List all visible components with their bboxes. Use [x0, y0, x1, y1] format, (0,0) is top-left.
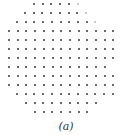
lattice-dot [86, 84, 88, 86]
lattice-dot [86, 39, 88, 41]
lattice-dot [25, 84, 27, 86]
lattice-dot [104, 30, 106, 32]
lattice-dot [25, 30, 27, 32]
lattice-dot [34, 30, 36, 32]
lattice-dot [68, 93, 70, 95]
lattice-dot [77, 3, 79, 5]
lattice-dot [69, 39, 71, 41]
lattice-dot [68, 21, 70, 23]
lattice-dot [95, 57, 97, 59]
lattice-dot [42, 102, 44, 104]
lattice-dot [51, 102, 53, 104]
lattice-dot [78, 111, 80, 113]
lattice-dot [78, 48, 80, 50]
lattice-dot [42, 3, 44, 5]
lattice-dot [52, 84, 54, 86]
lattice-dot [86, 111, 88, 113]
lattice-dot [112, 30, 114, 32]
lattice-dot [86, 93, 88, 95]
lattice-dot [59, 3, 61, 5]
lattice-dot [104, 48, 106, 50]
lattice-dot [68, 3, 70, 5]
lattice-dot [69, 48, 71, 50]
lattice-dot [34, 57, 36, 59]
lattice-dot [86, 66, 88, 68]
lattice-dot [104, 39, 106, 41]
lattice-dot [33, 93, 35, 95]
lattice-dot [112, 57, 114, 59]
lattice-dot [86, 30, 88, 32]
lattice-dot [43, 39, 45, 41]
lattice-dot [78, 57, 80, 59]
lattice-dot [86, 75, 88, 77]
lattice-dot [86, 102, 88, 104]
lattice-dot [8, 39, 10, 41]
lattice-dot [34, 102, 36, 104]
lattice-dot [16, 93, 18, 95]
lattice-dot [34, 75, 36, 77]
lattice-dot [33, 21, 35, 23]
lattice-dot [94, 93, 96, 95]
lattice-dot [52, 57, 54, 59]
lattice-dot [52, 30, 54, 32]
lattice-dot [25, 21, 27, 23]
lattice-dot [25, 48, 27, 50]
lattice-dot [43, 84, 45, 86]
lattice-dot [77, 102, 79, 104]
lattice-dot [8, 75, 10, 77]
lattice-dot [77, 93, 79, 95]
lattice-dot [112, 93, 114, 95]
lattice-dot [104, 66, 106, 68]
lattice-dot [104, 57, 106, 59]
lattice-dot [69, 84, 71, 86]
lattice-dot [60, 48, 62, 50]
lattice-dot [112, 48, 114, 50]
lattice-dot [51, 21, 53, 23]
lattice-dot [17, 39, 19, 41]
lattice-dot [60, 75, 62, 77]
lattice-dot [43, 111, 45, 113]
lattice-dot [8, 57, 10, 59]
lattice-dot [41, 12, 43, 14]
lattice-dot [86, 21, 88, 23]
lattice-dot [42, 93, 44, 95]
lattice-dot [17, 75, 19, 77]
lattice-dot [69, 102, 71, 104]
lattice-dot [52, 75, 54, 77]
lattice-dot [43, 75, 45, 77]
lattice-dot [17, 84, 19, 86]
lattice-dot [60, 111, 62, 113]
lattice-dot [95, 102, 97, 104]
lattice-dot [104, 75, 106, 77]
lattice-dot [60, 21, 62, 23]
lattice-dot [43, 48, 45, 50]
lattice-dot [52, 39, 54, 41]
lattice-dot [103, 93, 105, 95]
lattice-dot [17, 30, 19, 32]
lattice-dot [95, 84, 97, 86]
lattice-dot [33, 12, 35, 14]
lattice-dot [60, 102, 62, 104]
lattice-dot [86, 57, 88, 59]
lattice-dot [78, 39, 80, 41]
lattice-dot [60, 39, 62, 41]
lattice-dot [34, 39, 36, 41]
lattice-dot [69, 111, 71, 113]
lattice-dot [94, 21, 96, 23]
lattice-dot [34, 84, 36, 86]
lattice-dot [95, 39, 97, 41]
lattice-dot [60, 57, 62, 59]
lattice-dot [17, 57, 19, 59]
lattice-dot [8, 30, 10, 32]
lattice-dot [104, 84, 106, 86]
lattice-dot [60, 93, 62, 95]
lattice-dot [69, 30, 71, 32]
lattice-dot [52, 48, 54, 50]
lattice-dot [51, 111, 53, 113]
lattice-dot [68, 12, 70, 14]
lattice-dot [8, 48, 10, 50]
lattice-dot [25, 39, 27, 41]
dot-lattice-figure [0, 0, 132, 118]
lattice-dot [34, 48, 36, 50]
lattice-dot [52, 66, 54, 68]
